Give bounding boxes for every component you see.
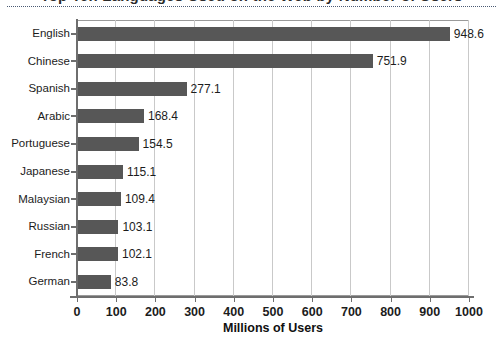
x-axis-tick [391,296,392,302]
bar-value-label: 751.9 [377,54,407,68]
bar [78,82,187,96]
x-axis-tick-label: 800 [380,305,401,319]
x-axis-tick [116,296,117,302]
x-axis-tick [273,296,274,302]
category-label: Malaysian [0,186,70,214]
y-axis-tick [71,171,77,173]
x-axis-tick-label: 100 [106,305,127,319]
bar [78,220,118,234]
category-label: English [0,20,70,48]
x-axis-line [70,296,474,298]
bar-row: Arabic168.4 [0,103,503,131]
bar-row: German83.8 [0,268,503,296]
category-label: Japanese [0,158,70,186]
top-dotted-divider [7,6,496,7]
bar-value-label: 154.5 [143,137,173,151]
bar-value-label: 102.1 [122,247,152,261]
bar-chart-figure: Top Ten Languages Used on the Web by Num… [0,0,503,338]
bar-row: Japanese115.1 [0,158,503,186]
bar-row: Spanish277.1 [0,75,503,103]
y-axis-tick [71,60,77,62]
x-axis-tick-label: 900 [419,305,440,319]
x-axis-tick [430,296,431,302]
bar-row: English948.6 [0,20,503,48]
x-axis-tick-label: 1000 [455,305,483,319]
x-axis-tick [234,296,235,302]
x-axis-tick-label: 600 [302,305,323,319]
bar-row: Russian103.1 [0,213,503,241]
bar [78,27,450,41]
bar [78,275,111,289]
category-label: Portuguese [0,130,70,158]
y-axis-tick [71,253,77,255]
bar-value-label: 948.6 [454,27,484,41]
bar [78,137,139,151]
bar [78,109,144,123]
bar-value-label: 109.4 [125,192,155,206]
category-label: Spanish [0,75,70,103]
x-axis-tick [469,296,470,302]
x-axis-tick [77,296,78,302]
x-axis-tick [351,296,352,302]
bar [78,165,123,179]
category-label: Russian [0,213,70,241]
bar [78,247,118,261]
y-axis-tick [71,143,77,145]
y-axis-tick [71,226,77,228]
y-axis-tick [71,198,77,200]
x-axis-tick-label: 300 [184,305,205,319]
bar [78,192,121,206]
bar-row: French102.1 [0,241,503,269]
y-axis-tick [71,281,77,283]
x-axis-tick-label: 0 [74,305,81,319]
y-axis-tick [71,33,77,35]
category-label: French [0,241,70,269]
category-label: German [0,268,70,296]
bar [78,54,373,68]
bar-value-label: 103.1 [122,220,152,234]
y-axis-tick [71,115,77,117]
bar-row: Malaysian109.4 [0,186,503,214]
bar-row: Portuguese154.5 [0,130,503,158]
x-axis-tick [155,296,156,302]
category-label: Arabic [0,103,70,131]
bar-value-label: 277.1 [191,82,221,96]
x-axis-tick-label: 700 [341,305,362,319]
bar-row: Chinese751.9 [0,48,503,76]
x-axis-tick-label: 200 [145,305,166,319]
chart-title: Top Ten Languages Used on the Web by Num… [0,0,503,4]
bar-value-label: 168.4 [148,109,178,123]
x-axis-tick-label: 500 [263,305,284,319]
x-axis-tick-label: 400 [223,305,244,319]
y-axis-tick [71,88,77,90]
x-axis-tick [195,296,196,302]
x-axis-title: Millions of Users [77,321,469,335]
bar-value-label: 115.1 [127,165,156,179]
category-label: Chinese [0,48,70,76]
bar-value-label: 83.8 [115,275,138,289]
x-axis-tick [312,296,313,302]
